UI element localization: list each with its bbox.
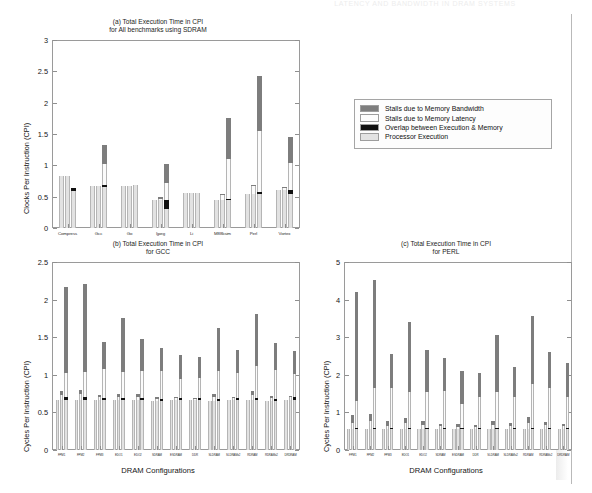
y-tick-label: 1.5: [26, 130, 48, 139]
bar: [523, 262, 526, 450]
bar-segment-lat: [217, 371, 220, 399]
y-tick-label: 1.5: [26, 333, 48, 342]
bar-segment-lat: [64, 373, 67, 398]
bar: [373, 262, 376, 450]
bar-segment-bw: [117, 394, 120, 397]
y-tick-mark: [295, 228, 299, 229]
x-tick-label: FPM3: [384, 453, 391, 457]
bar-segment-overlap: [478, 428, 481, 430]
bar-segment-proc: [164, 209, 169, 228]
bar-segment-overlap: [513, 428, 516, 430]
bar-segment-proc: [470, 429, 473, 450]
bar-segment-proc: [495, 429, 498, 450]
bar-segment-proc: [59, 176, 64, 228]
x-tick-mark: [62, 446, 63, 450]
bar-segment-proc: [113, 400, 116, 450]
x-tick-label: SLDRAMx2: [226, 453, 240, 457]
bar-segment-lat: [491, 425, 494, 430]
bar: [288, 40, 293, 228]
bar-segment-lat: [289, 397, 292, 399]
bar: [174, 262, 177, 450]
x-tick-label: DDR: [192, 453, 198, 457]
bar-segment-proc: [64, 400, 67, 450]
bar: [189, 40, 194, 228]
bar-segment-proc: [151, 401, 154, 450]
bar-segment-proc: [282, 190, 287, 228]
bar-segment-overlap: [460, 428, 463, 430]
bar: [251, 262, 254, 450]
bar-segment-proc: [183, 193, 188, 228]
bar-segment-bw: [98, 395, 101, 397]
bar-segment-bw: [566, 363, 569, 397]
bar-segment-overlap: [226, 199, 231, 200]
y-tick-mark: [295, 197, 299, 198]
bar-segment-overlap: [257, 192, 262, 193]
y-tick-mark: [53, 450, 57, 451]
bar: [487, 262, 490, 450]
bar-segment-proc: [102, 187, 107, 228]
bar-segment-lat: [179, 379, 182, 399]
bar-segment-bw: [386, 421, 389, 426]
bar-segment-proc: [236, 400, 239, 450]
bar-segment-bw: [136, 394, 139, 397]
bar: [121, 40, 126, 228]
bar-segment-bw: [288, 137, 293, 163]
bar-segment-proc: [443, 429, 446, 450]
bar-segment-proc: [251, 194, 256, 228]
bar: [562, 262, 565, 450]
bar-segment-overlap: [217, 399, 220, 401]
bar: [470, 262, 473, 450]
bar-segment-proc: [460, 429, 463, 450]
bar-segment-proc: [217, 401, 220, 450]
x-tick-label: SDRAM: [435, 453, 445, 457]
bar: [133, 40, 138, 228]
bar: [452, 262, 455, 450]
x-tick-label: FPM2: [77, 453, 84, 457]
bar-segment-proc: [56, 400, 59, 450]
chart-legend: Stalls due to Memory Bandwidth Stalls du…: [354, 99, 552, 149]
bar-segment-bw: [289, 396, 292, 398]
bar: [155, 262, 158, 450]
bar-segment-bw: [491, 421, 494, 425]
legend-swatch-processor-execution: [360, 133, 379, 141]
bar: [505, 262, 508, 450]
bar-segment-overlap: [236, 398, 239, 400]
x-tick-label: RDRAMx2: [539, 453, 552, 457]
bar-segment-proc: [276, 190, 281, 228]
bar-segment-proc: [232, 400, 235, 450]
bar: [355, 262, 358, 450]
bar-segment-bw: [531, 316, 534, 384]
bar-segment-lat: [79, 394, 82, 399]
bar-segment-proc: [152, 200, 157, 228]
bar: [495, 262, 498, 450]
bar-segment-bw: [217, 328, 220, 371]
bar-segment-lat: [160, 371, 163, 399]
bar: [193, 262, 196, 450]
bar-segment-lat: [421, 425, 424, 430]
bar-segment-overlap: [355, 428, 358, 430]
x-tick-label: Gcc: [95, 231, 103, 236]
x-tick-label: DRDRAM: [284, 453, 296, 457]
bar-segment-lat: [102, 369, 105, 398]
x-tick-mark: [405, 446, 406, 450]
bar-segment-overlap: [64, 397, 67, 399]
bar-segment-proc: [245, 194, 250, 228]
bar-segment-bw: [158, 197, 163, 198]
bar-segment-bw: [408, 322, 411, 392]
bar-segment-overlap: [390, 428, 393, 430]
y-tick-label: 1: [26, 161, 48, 170]
y-tick-mark: [53, 197, 57, 198]
x-tick-mark: [119, 446, 120, 450]
bar-segment-bw: [456, 424, 459, 426]
bar-segment-lat: [140, 371, 143, 398]
bar-segment-bw: [121, 318, 124, 372]
bar-segment-bw: [421, 421, 424, 425]
bar-segment-proc: [452, 429, 455, 450]
bar-segment-lat: [270, 398, 273, 401]
y-tick-label: 2.5: [26, 67, 48, 76]
bar: [276, 40, 281, 228]
bar: [71, 40, 76, 228]
bar-segment-lat: [408, 392, 411, 428]
y-tick-label: 0: [318, 446, 340, 455]
bar-segment-bw: [155, 397, 158, 399]
